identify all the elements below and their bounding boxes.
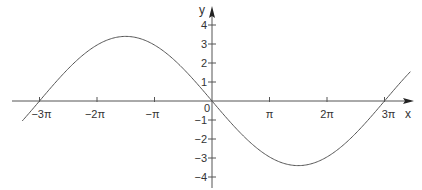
y-tick-label: 4 [201,19,207,31]
y-tick-label: −2 [194,133,207,145]
y-tick-label: −1 [194,114,207,126]
y-tick-label: 3 [201,38,207,50]
x-tick-label: −π [145,108,159,120]
x-tick-label: 3π [382,108,396,120]
y-axis-label: y [199,3,205,17]
x-tick-label: π [266,108,274,120]
x-tick-label: 2π [320,108,334,120]
chart: −3π−2π−ππ2π3π 4321−1−2−3−4 x y 0 [0,0,422,190]
x-axis-label: x [405,107,411,121]
x-axis [12,98,414,104]
y-tick-label: −3 [194,152,207,164]
y-tick-label: 1 [201,76,207,88]
y-tick-label: −4 [194,171,207,183]
x-tick-label: −2π [85,108,106,120]
x-tick-label: −3π [31,108,52,120]
y-tick-label: 2 [201,57,207,69]
y-axis [209,6,215,188]
x-ticks: −3π−2π−ππ2π3π [31,97,395,120]
origin-label: 0 [204,102,210,114]
